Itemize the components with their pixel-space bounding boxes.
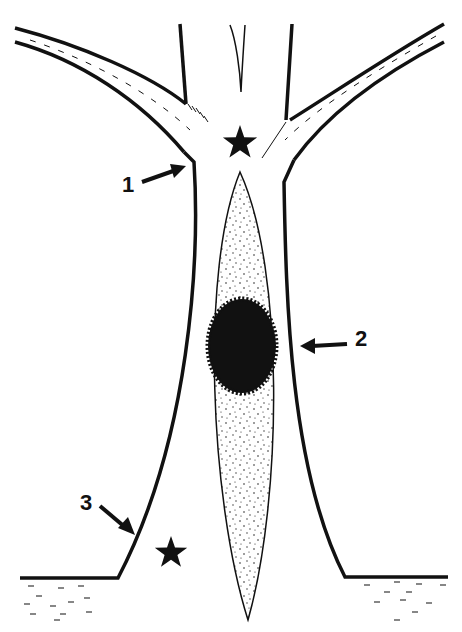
label-3: 3 <box>80 492 92 514</box>
upper-trunk <box>180 24 292 120</box>
spindle-body <box>214 172 273 620</box>
star-icon-bottom <box>155 536 187 567</box>
soil-right <box>364 582 446 620</box>
left-branch <box>15 28 190 152</box>
arrow-3 <box>100 506 135 535</box>
label-1: 1 <box>122 174 134 196</box>
arrow-2 <box>300 338 347 354</box>
star-icon-top <box>223 125 257 158</box>
soil-left <box>24 586 92 620</box>
dark-core <box>208 299 276 393</box>
label-2: 2 <box>355 328 367 350</box>
arrow-1 <box>142 164 186 182</box>
right-branch <box>285 24 444 160</box>
diagram-canvas <box>0 0 462 632</box>
